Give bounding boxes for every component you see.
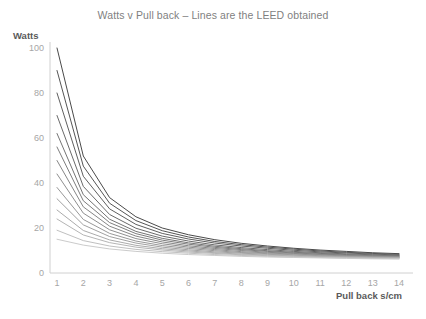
series-line: [57, 188, 399, 258]
plot-area: [0, 0, 426, 319]
series-line: [57, 116, 399, 256]
series-line: [57, 48, 399, 254]
series-line: [57, 71, 399, 255]
series-line: [57, 93, 399, 255]
chart-container: Watts v Pull back – Lines are the LEED o…: [0, 0, 426, 319]
